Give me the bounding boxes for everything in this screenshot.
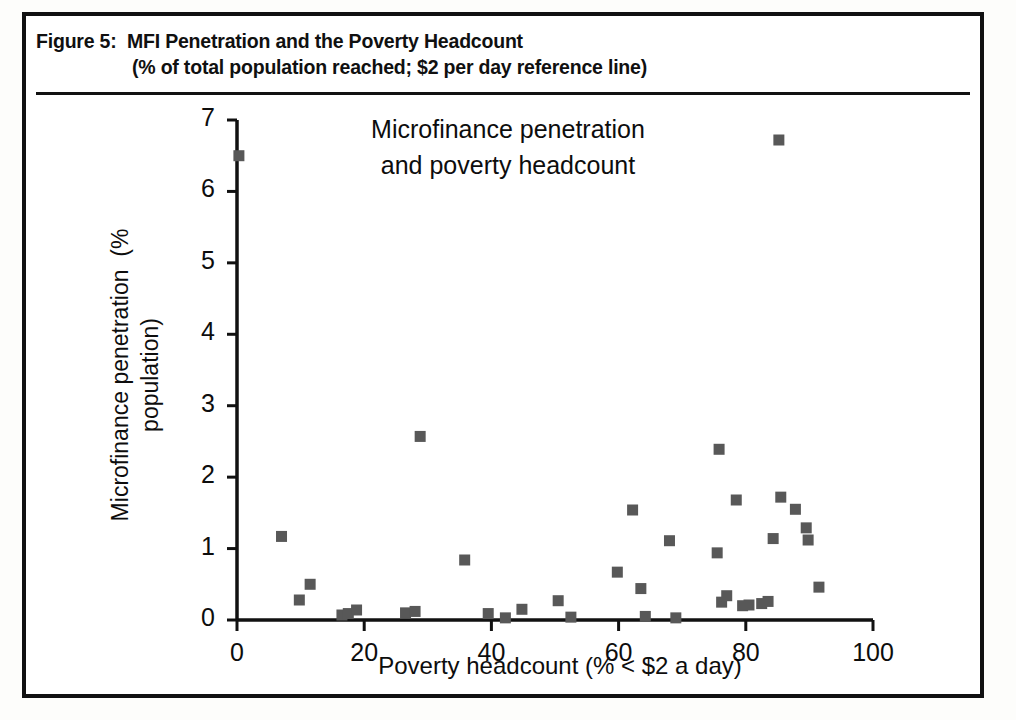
data-point-marker (459, 555, 470, 566)
figure-caption-line-2: (% of total population reached; $2 per d… (36, 54, 916, 80)
chart-title: Microfinance penetration and poverty hea… (318, 111, 698, 183)
x-tick-label: 100 (843, 638, 903, 667)
y-tick-label: 4 (175, 317, 215, 346)
data-point-marker (553, 595, 564, 606)
chart-title-line-1: Microfinance penetration (318, 111, 698, 147)
figure-root: Figure 5: MFI Penetration and the Povert… (0, 0, 1016, 720)
data-point-marker (351, 605, 362, 616)
data-point-marker (305, 579, 316, 590)
data-point-marker (612, 567, 623, 578)
y-axis-title-line-1: Microfinance penetration (% (105, 155, 135, 595)
y-tick-label: 3 (175, 389, 215, 418)
data-point-marker (500, 612, 511, 623)
data-point-marker (635, 583, 646, 594)
data-point-marker (294, 595, 305, 606)
data-point-marker (233, 150, 244, 161)
data-point-marker (773, 135, 784, 146)
data-point-marker (743, 600, 754, 611)
x-tick-label: 0 (207, 638, 267, 667)
x-tick-label: 20 (334, 638, 394, 667)
data-point-marker (415, 431, 426, 442)
y-tick-label: 5 (175, 246, 215, 275)
data-point-marker (731, 495, 742, 506)
scatter-plot: Microfinance penetration and poverty hea… (0, 100, 1016, 700)
x-tick-label: 60 (589, 638, 649, 667)
y-tick-label: 2 (175, 460, 215, 489)
data-point-marker (714, 444, 725, 455)
data-point-marker (400, 607, 411, 618)
data-point-marker (801, 522, 812, 533)
figure-caption-line-1: Figure 5: MFI Penetration and the Povert… (36, 28, 916, 54)
data-point-marker (790, 504, 801, 515)
data-point-marker (483, 608, 494, 619)
data-point-marker (627, 505, 638, 516)
data-point-layer (233, 135, 824, 624)
x-tick-label: 80 (716, 638, 776, 667)
data-point-marker (565, 612, 576, 623)
x-tick-label: 40 (461, 638, 521, 667)
caption-divider-rule (36, 92, 970, 95)
data-point-marker (276, 531, 287, 542)
data-point-marker (410, 606, 421, 617)
data-point-marker (640, 611, 651, 622)
y-tick-label: 1 (175, 532, 215, 561)
y-tick-label: 0 (175, 603, 215, 632)
data-point-marker (813, 582, 824, 593)
y-axis-title-line-2: population) (135, 155, 165, 595)
y-axis-title: Microfinance penetration (% population) (105, 155, 165, 595)
data-point-marker (768, 533, 779, 544)
data-point-marker (516, 604, 527, 615)
data-point-marker (712, 547, 723, 558)
data-point-marker (664, 535, 675, 546)
y-tick-label: 6 (175, 174, 215, 203)
plot-axes (227, 120, 873, 631)
data-point-marker (803, 535, 814, 546)
data-point-marker (670, 612, 681, 623)
data-point-marker (721, 590, 732, 601)
y-tick-label: 7 (175, 103, 215, 132)
figure-caption: Figure 5: MFI Penetration and the Povert… (36, 28, 916, 80)
data-point-marker (763, 596, 774, 607)
chart-title-line-2: and poverty headcount (318, 147, 698, 183)
data-point-marker (775, 492, 786, 503)
